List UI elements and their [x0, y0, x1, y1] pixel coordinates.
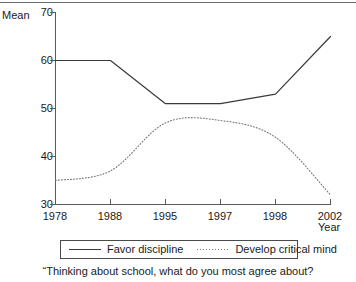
chart-caption: “Thinking about school, what do you most…: [0, 265, 356, 278]
legend-label-favor-discipline: Favor discipline: [107, 244, 183, 255]
chart-figure: Mean Year 70 60 50 40 30 1978 1988 1995 …: [0, 0, 356, 282]
legend-entry-favor-discipline: Favor discipline: [69, 244, 183, 255]
x-axis-ticks: [56, 199, 331, 204]
legend-dotted-line-icon: [197, 245, 229, 254]
y-axis-ticks: [50, 13, 55, 205]
chart-legend: Favor discipline Develop critical mind: [60, 240, 298, 259]
series-line-develop-critical-mind: [56, 118, 331, 195]
legend-entry-develop-critical-mind: Develop critical mind: [197, 244, 336, 255]
series-line-favor-discipline: [56, 37, 331, 104]
legend-solid-line-icon: [69, 245, 101, 254]
data-series-layer: [56, 37, 331, 195]
legend-label-develop-critical-mind: Develop critical mind: [235, 244, 336, 255]
